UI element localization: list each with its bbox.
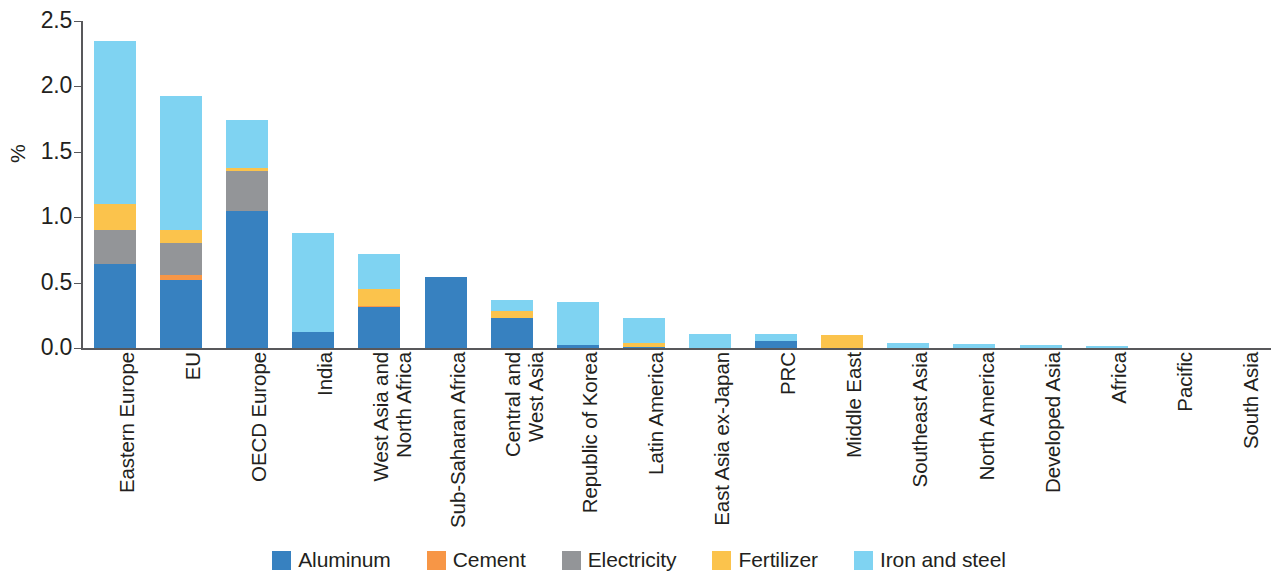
stacked-bar[interactable] — [94, 41, 136, 348]
legend-swatch-icon — [562, 551, 581, 570]
stacked-bar[interactable] — [425, 277, 467, 348]
legend-item[interactable]: Iron and steel — [854, 548, 1006, 572]
stacked-bar[interactable] — [623, 318, 665, 348]
bar-segment-fertilizer — [821, 335, 863, 348]
y-tick-label: 1.0 — [26, 205, 72, 228]
stacked-bar[interactable] — [358, 254, 400, 348]
legend-swatch-icon — [854, 551, 873, 570]
bar-slot — [1074, 21, 1140, 348]
bar-segment-iron-and-steel — [292, 233, 334, 332]
y-axis-tick-labels: 0.00.51.01.52.02.5 — [0, 0, 72, 579]
bar-segment-aluminum — [94, 264, 136, 348]
legend-label: Iron and steel — [880, 548, 1006, 572]
bar-segment-electricity — [94, 230, 136, 264]
bar-segment-aluminum — [358, 307, 400, 348]
bar-segment-fertilizer — [160, 230, 202, 243]
x-axis-category-labels: Eastern EuropeEUOECD EuropeIndiaWest Asi… — [82, 352, 1272, 542]
chart-legend: AluminumCementElectricityFertilizerIron … — [0, 548, 1278, 572]
bar-segment-iron-and-steel — [755, 334, 797, 342]
y-tick-label: 2.0 — [26, 74, 72, 97]
stacked-bar[interactable] — [689, 334, 731, 348]
bar-slot — [545, 21, 611, 348]
bar-segment-iron-and-steel — [623, 318, 665, 343]
x-axis-line — [81, 348, 1271, 350]
legend-label: Aluminum — [298, 548, 391, 572]
bar-slot — [280, 21, 346, 348]
bar-slot — [214, 21, 280, 348]
bar-segment-aluminum — [623, 347, 665, 348]
legend-item[interactable]: Cement — [427, 548, 526, 572]
x-axis-label: EU — [181, 352, 204, 537]
stacked-bar-chart: % 0.00.51.01.52.02.5 Eastern EuropeEUOEC… — [0, 0, 1278, 579]
legend-label: Fertilizer — [738, 548, 818, 572]
stacked-bar[interactable] — [755, 334, 797, 348]
x-axis-label: Middle East — [842, 352, 865, 537]
stacked-bar[interactable] — [160, 96, 202, 348]
bar-segment-iron-and-steel — [226, 120, 268, 167]
x-axis-label: Central andWest Asia — [500, 352, 546, 537]
bar-segment-aluminum — [425, 277, 467, 348]
bar-slot — [413, 21, 479, 348]
y-tick-mark — [74, 348, 81, 349]
stacked-bar[interactable] — [821, 335, 863, 348]
x-axis-label: Republic of Korea — [578, 352, 601, 537]
x-axis-label: Sub-Saharan Africa — [446, 352, 469, 537]
legend-swatch-icon — [272, 551, 291, 570]
y-tick-mark — [74, 283, 81, 284]
stacked-bar[interactable] — [953, 344, 995, 348]
legend-swatch-icon — [712, 551, 731, 570]
y-tick-mark — [74, 217, 81, 218]
bar-slot — [875, 21, 941, 348]
x-axis-label: Pacific — [1173, 352, 1196, 537]
bar-segment-iron-and-steel — [491, 300, 533, 312]
stacked-bar[interactable] — [1020, 345, 1062, 348]
y-tick-label: 2.5 — [26, 9, 72, 32]
x-axis-label: India — [313, 352, 336, 537]
bar-segment-iron-and-steel — [1086, 346, 1128, 348]
x-axis-label: Latin America — [644, 352, 667, 537]
bar-segment-iron-and-steel — [689, 334, 731, 348]
bar-segment-aluminum — [491, 318, 533, 348]
bar-segment-aluminum — [755, 341, 797, 348]
bar-segment-iron-and-steel — [160, 96, 202, 231]
x-axis-label: East Asia ex-Japan — [710, 352, 733, 537]
legend-label: Cement — [453, 548, 526, 572]
plot-area — [82, 21, 1272, 348]
x-axis-label: South Asia — [1239, 352, 1262, 537]
y-tick-mark — [74, 152, 81, 153]
legend-label: Electricity — [588, 548, 677, 572]
bar-slot — [479, 21, 545, 348]
bar-slot — [1008, 21, 1074, 348]
stacked-bar[interactable] — [1086, 346, 1128, 348]
legend-item[interactable]: Aluminum — [272, 548, 391, 572]
bar-segment-iron-and-steel — [358, 254, 400, 289]
bar-segment-aluminum — [292, 332, 334, 348]
bar-segment-electricity — [226, 171, 268, 210]
stacked-bar[interactable] — [557, 302, 599, 348]
bar-slot — [346, 21, 412, 348]
x-axis-label: PRC — [776, 352, 799, 537]
legend-item[interactable]: Fertilizer — [712, 548, 818, 572]
bar-segment-aluminum — [160, 280, 202, 348]
stacked-bar[interactable] — [292, 233, 334, 348]
bar-slot — [809, 21, 875, 348]
bar-slot — [148, 21, 214, 348]
bar-segment-iron-and-steel — [887, 343, 929, 348]
bar-segment-iron-and-steel — [557, 302, 599, 345]
legend-item[interactable]: Electricity — [562, 548, 677, 572]
bar-segment-aluminum — [226, 211, 268, 348]
bar-segment-iron-and-steel — [1020, 345, 1062, 348]
bar-slot — [1206, 21, 1272, 348]
bar-slot — [82, 21, 148, 348]
x-axis-label: OECD Europe — [247, 352, 270, 537]
x-axis-label: North America — [975, 352, 998, 537]
stacked-bar[interactable] — [491, 300, 533, 348]
stacked-bar[interactable] — [887, 343, 929, 348]
x-axis-label: West Asia andNorth Africa — [368, 352, 414, 537]
bar-slot — [941, 21, 1007, 348]
bar-slot — [677, 21, 743, 348]
x-axis-label: Africa — [1107, 352, 1130, 537]
bar-segment-fertilizer — [358, 289, 400, 306]
bar-segment-iron-and-steel — [953, 344, 995, 348]
stacked-bar[interactable] — [226, 120, 268, 348]
